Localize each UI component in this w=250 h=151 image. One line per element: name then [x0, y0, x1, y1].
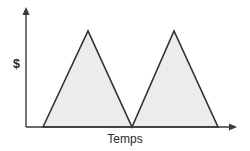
x-axis-arrow-icon	[229, 123, 237, 130]
x-axis-label: Temps	[0, 133, 250, 145]
chart-plot-area	[0, 0, 250, 151]
y-axis-arrow-icon	[22, 7, 29, 15]
series-sawtooth-area	[43, 31, 218, 127]
y-axis-label: $	[13, 58, 20, 71]
chart-figure: $ Temps	[0, 0, 250, 151]
